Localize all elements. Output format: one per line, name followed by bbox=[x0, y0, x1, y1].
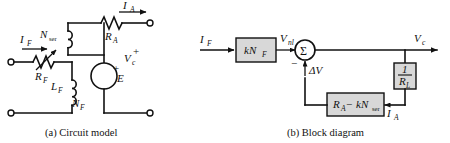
label-field-inductance-sub: F bbox=[57, 86, 63, 95]
label-drop-block-kn-sub: ser bbox=[372, 105, 380, 112]
label-b-output-voltage-sub: c bbox=[422, 38, 426, 47]
label-no-load-voltage: V bbox=[280, 32, 288, 44]
terminal-input-negative bbox=[8, 110, 14, 116]
label-load-block-numerator: 1 bbox=[402, 63, 408, 75]
label-b-output-voltage: V bbox=[414, 32, 422, 44]
label-armature-current: I bbox=[122, 0, 128, 11]
caption-panel-b: (b) Block diagram bbox=[287, 127, 364, 139]
figure-svg: I F I A N ser R F R A L F N F + E V bbox=[0, 0, 450, 143]
label-summer-sigma: Σ bbox=[300, 44, 307, 58]
caption-panel-a: (a) Circuit model bbox=[45, 127, 117, 139]
label-output-voltage: V bbox=[124, 52, 132, 64]
label-field-resistance: R bbox=[34, 70, 42, 82]
figure-root: I F I A N ser R F R A L F N F + E V bbox=[0, 0, 450, 143]
label-b-input-current: I bbox=[199, 33, 205, 45]
label-b-armature-current-sub: A bbox=[393, 113, 399, 122]
label-gain-block-sub: F bbox=[261, 50, 267, 59]
label-field-resistance-sub: F bbox=[42, 76, 48, 85]
label-field-turns-sub: F bbox=[79, 103, 85, 112]
label-series-turns-sub: ser bbox=[49, 35, 57, 42]
label-series-turns: N bbox=[39, 28, 48, 40]
label-drop-block-kn: kN bbox=[356, 98, 369, 110]
panel-b-block-diagram: I F kN F V nl Σ − ΔV V c bbox=[199, 32, 437, 139]
terminal-output-negative bbox=[147, 110, 153, 116]
label-b-armature-current: I bbox=[386, 107, 392, 119]
panel-a-circuit-model: I F I A N ser R F R A L F N F + E V bbox=[8, 0, 153, 139]
label-gain-block: kN bbox=[244, 44, 257, 56]
label-summer-minus: − bbox=[291, 57, 297, 69]
label-no-load-voltage-sub: nl bbox=[288, 38, 294, 47]
series-field-coil bbox=[68, 31, 72, 48]
label-field-current-sub: F bbox=[26, 39, 32, 48]
label-output-plus: + bbox=[133, 45, 139, 57]
terminal-input-positive bbox=[8, 59, 14, 65]
label-delta-v: ΔV bbox=[308, 64, 323, 76]
label-drop-block-minus: − bbox=[346, 98, 352, 110]
label-emf-source: E bbox=[116, 72, 124, 84]
rheostat-variable-arrow bbox=[36, 50, 56, 70]
terminal-output-positive bbox=[147, 20, 153, 26]
label-field-turns: N bbox=[71, 97, 80, 109]
label-field-current: I bbox=[19, 33, 25, 45]
label-armature-current-sub: A bbox=[129, 5, 135, 14]
label-armature-resistance-sub: A bbox=[112, 36, 118, 45]
label-drop-block-ra: R bbox=[332, 98, 340, 110]
label-field-inductance: L bbox=[50, 80, 57, 92]
label-load-block-denominator: R bbox=[398, 75, 406, 87]
label-armature-resistance: R bbox=[104, 30, 112, 42]
label-b-input-current-sub: F bbox=[206, 39, 212, 48]
label-output-voltage-sub: c bbox=[132, 58, 136, 67]
